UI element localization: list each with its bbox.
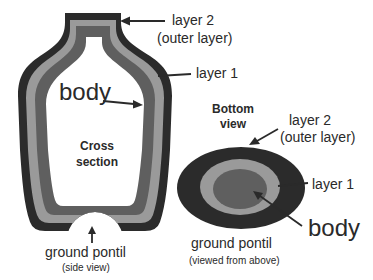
body-core: [213, 169, 267, 209]
label-outer-layer-bottom: (outer layer): [280, 130, 355, 144]
label-pontil-side: ground pontil: [45, 245, 126, 259]
label-layer1-bottom: layer 1: [312, 177, 354, 191]
label-bottom-view-2: view: [208, 118, 258, 130]
label-pontil-bottom-sub: (viewed from above): [189, 256, 280, 266]
label-layer2-side: layer 2: [172, 13, 214, 27]
label-layer2-bottom: layer 2: [289, 113, 331, 127]
label-layer1-side: layer 1: [196, 66, 238, 80]
label-body-bottom: body: [308, 216, 360, 240]
bottle-cross-section: [18, 13, 172, 231]
label-pontil-side-sub: (side view): [62, 263, 110, 273]
bottom-view-ellipses: [177, 147, 305, 229]
label-outer-layer-side: (outer layer): [157, 31, 232, 45]
label-pontil-bottom: ground pontil: [191, 236, 272, 250]
label-body-side: body: [59, 80, 111, 104]
label-cross-section-1: Cross: [72, 140, 122, 152]
label-cross-section-2: section: [72, 156, 122, 168]
label-bottom-view-1: Bottom: [208, 103, 258, 115]
